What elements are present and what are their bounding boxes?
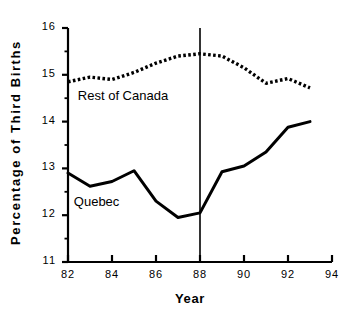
x-tick-label: 86 <box>141 268 171 280</box>
series-line-rest-of-canada <box>68 54 310 88</box>
y-tick-label: 13 <box>32 160 56 172</box>
series-label-quebec: Quebec <box>74 194 120 209</box>
y-axis-title-text: Percentage of Third Births <box>8 40 23 245</box>
x-tick-label: 88 <box>185 268 215 280</box>
x-tick-label: 82 <box>53 268 83 280</box>
y-tick-label: 11 <box>32 254 56 266</box>
x-tick-label: 92 <box>273 268 303 280</box>
y-tick-label: 14 <box>32 114 56 126</box>
y-tick-label: 15 <box>32 67 56 79</box>
chart-figure: Percentage of Third Births Year 11121314… <box>0 0 350 319</box>
axis-layer <box>62 28 332 262</box>
y-tick-label: 12 <box>32 207 56 219</box>
x-axis-title: Year <box>30 291 350 306</box>
series-layer <box>68 54 310 218</box>
y-tick-label: 16 <box>32 20 56 32</box>
x-tick-label: 90 <box>229 268 259 280</box>
x-axis-title-text: Year <box>175 291 205 306</box>
x-tick-label: 84 <box>97 268 127 280</box>
series-label-rest-of-canada: Rest of Canada <box>78 88 168 103</box>
y-axis-title: Percentage of Third Births <box>0 0 30 285</box>
x-tick-label: 94 <box>317 268 347 280</box>
